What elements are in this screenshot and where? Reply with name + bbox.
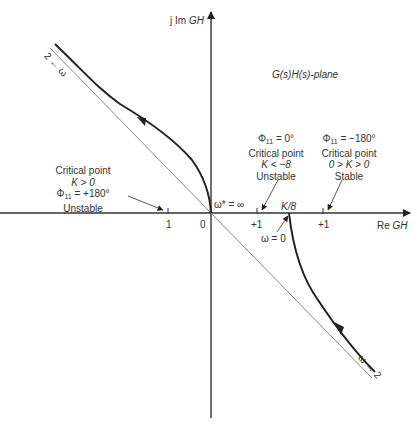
origin-label: 0 [200, 219, 206, 230]
omega-zero-label: ω = 0 [261, 233, 286, 244]
leader-omega-zero [277, 216, 288, 232]
tick-label-neg-one: 1 [166, 219, 172, 230]
annotation-left: Critical point K > 0 Φ11 = +180° Unstabl… [38, 165, 128, 214]
annotation-right: Φ11 = −180° Critical point 0 > K > 0 Sta… [316, 133, 382, 182]
imag-axis-label: j Im GH [170, 15, 204, 26]
tick-label-pos-one-b: +1 [318, 219, 329, 230]
real-axis-label: Re GH [377, 220, 408, 231]
nyquist-curve-lower [289, 213, 375, 372]
leader-right [328, 180, 342, 210]
annotation-middle: Φ11 = 0° Critical point K < −8 Unstable [245, 133, 307, 182]
leader-left [128, 196, 163, 210]
leader-middle [262, 180, 278, 210]
omega-infinity-label: ω* = ∞ [214, 199, 244, 210]
k-over-8-label: K/8 [281, 201, 296, 212]
direction-arrow-upper [137, 117, 146, 126]
tick-label-pos-one-a: +1 [251, 219, 262, 230]
plane-title: G(s)H(s)-plane [272, 69, 338, 80]
